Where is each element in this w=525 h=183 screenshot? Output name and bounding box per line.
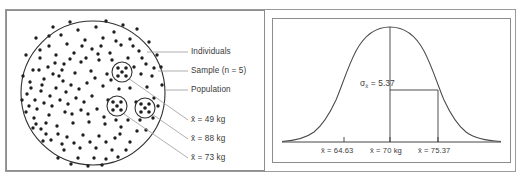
sigma-subscript: x̄ <box>365 83 368 89</box>
sampling-distribution-panel: σx̄ = 5.37 x̄ = 64.63 x̄ = 70 kg x̄ = 75… <box>272 18 511 163</box>
sample-mean-label-2: x̄ = 88 kg <box>191 135 225 143</box>
standard-error-annotation: σx̄ = 5.37 <box>360 79 395 88</box>
callout-label-individuals: Individuals <box>191 48 231 56</box>
callout-label-sample: Sample (n = 5) <box>191 67 246 75</box>
left-panel-labels: Individuals Sample (n = 5) Population x̄… <box>6 10 265 171</box>
sigma-value: = 5.37 <box>368 78 395 88</box>
callout-label-population: Population <box>191 86 231 94</box>
population-sampling-panel: Individuals Sample (n = 5) Population x̄… <box>6 10 265 171</box>
sample-mean-label-1: x̄ = 49 kg <box>191 116 225 124</box>
x-axis-label-plus-one-se: x̄ = 75.37 <box>418 147 450 155</box>
right-panel-labels: σx̄ = 5.37 x̄ = 64.63 x̄ = 70 kg x̄ = 75… <box>272 18 511 163</box>
x-axis-label-mean: x̄ = 70 kg <box>370 147 402 155</box>
x-axis-label-minus-one-se: x̄ = 64.63 <box>321 147 353 155</box>
statistics-figure: Individuals Sample (n = 5) Population x̄… <box>0 0 525 183</box>
sample-mean-label-3: x̄ = 73 kg <box>191 154 225 162</box>
